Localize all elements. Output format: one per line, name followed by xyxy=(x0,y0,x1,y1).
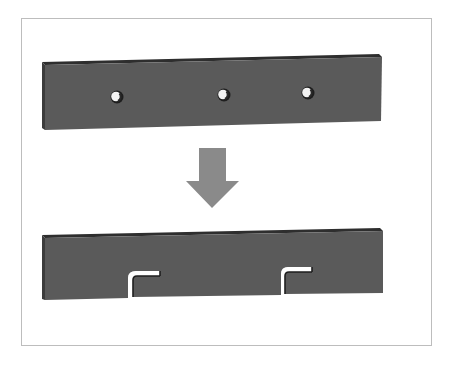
bottom-bar-with-slots xyxy=(42,228,383,300)
down-arrow-icon xyxy=(186,148,239,208)
hole-2 xyxy=(218,89,231,102)
diagram-canvas xyxy=(0,0,451,366)
top-bar-with-holes xyxy=(42,54,382,130)
bottom-bar-left-edge xyxy=(42,235,45,300)
bottom-bar-face xyxy=(45,231,383,300)
hole-1 xyxy=(111,91,124,104)
top-bar-face xyxy=(45,57,382,130)
top-bar-left-edge xyxy=(42,62,45,130)
hole-3 xyxy=(302,87,315,100)
